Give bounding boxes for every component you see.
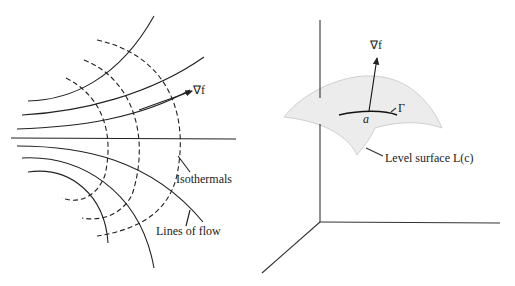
lines-of-flow-label: Lines of flow bbox=[156, 224, 221, 239]
right-gradient-label: ∇f bbox=[370, 38, 382, 53]
diagram-canvas bbox=[0, 0, 515, 286]
flow-line bbox=[17, 90, 190, 129]
y-axis bbox=[320, 222, 500, 223]
gamma-label: Γ bbox=[398, 101, 405, 116]
right-figure bbox=[262, 20, 500, 273]
level-surface-label: Level surface L(c) bbox=[385, 151, 474, 166]
point-a-label: a bbox=[363, 112, 369, 127]
gradient-arrow bbox=[139, 91, 192, 110]
isothermals-leader bbox=[178, 156, 190, 172]
isothermal bbox=[62, 78, 108, 200]
left-gradient-label: ∇f bbox=[193, 83, 205, 98]
flow-line bbox=[22, 158, 154, 268]
flow-line bbox=[28, 16, 154, 101]
x-axis bbox=[262, 222, 320, 273]
flow-line bbox=[28, 171, 108, 243]
horizontal-axis-line bbox=[11, 138, 236, 139]
surface-leader bbox=[366, 148, 383, 156]
isothermals-label: Isothermals bbox=[176, 172, 232, 187]
flow-line bbox=[22, 57, 204, 115]
